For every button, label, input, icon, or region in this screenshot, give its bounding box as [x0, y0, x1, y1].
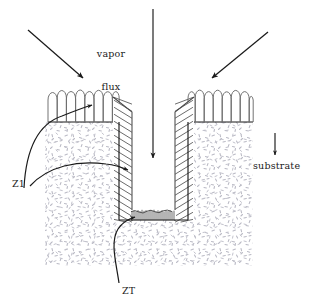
- top-right-columnar-film: [188, 90, 253, 122]
- zone-1-label: Z1: [12, 178, 25, 189]
- vapor-flux-label-line2: flux: [84, 81, 138, 92]
- left-sidewall-columnar-film: [113, 97, 132, 222]
- vapor-flux-arrow-left: [28, 30, 83, 78]
- substrate-label: substrate: [253, 160, 300, 171]
- vapor-flux-label: vapor flux: [84, 26, 138, 114]
- vapor-flux-label-line1: vapor: [84, 48, 138, 59]
- substrate-body: [45, 122, 253, 266]
- right-sidewall-columnar-film: [175, 97, 194, 222]
- zone-t-label: ZT: [122, 285, 135, 296]
- vapor-flux-arrow-right: [212, 32, 268, 78]
- vapor-deposition-diagram: vapor flux substrate Z1 ZT: [0, 0, 313, 305]
- diagram-canvas: [0, 0, 313, 305]
